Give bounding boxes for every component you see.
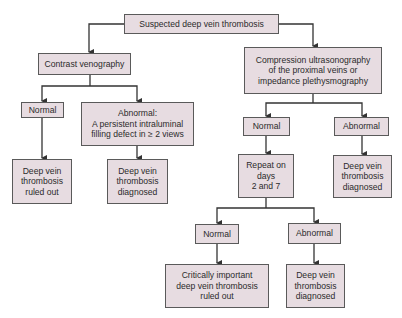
node-label: Abnormal	[343, 121, 380, 132]
node-label: Suspected deep vein thrombosis	[139, 19, 264, 30]
node-dvt-diagnosed-left: Deep vein thrombosis diagnosed	[107, 159, 168, 204]
node-label: Normal	[253, 121, 281, 132]
node-repeat-normal: Normal	[195, 224, 239, 244]
node-critical-dvt-ruled-out: Critically important deep vein thrombosi…	[165, 264, 269, 308]
node-dvt-diagnosed-right: Deep vein thrombosis diagnosed	[333, 155, 392, 198]
node-venography-normal: Normal	[21, 102, 64, 118]
node-dvt-ruled-out-left: Deep vein thrombosis ruled out	[12, 159, 72, 204]
node-label: Abnormal	[296, 228, 333, 239]
node-compression-normal: Normal	[243, 117, 290, 136]
node-repeat-abnormal: Abnormal	[288, 223, 341, 244]
node-venography-abnormal: Abnormal: A persistent intraluminal fill…	[81, 102, 194, 146]
node-compression-abnormal: Abnormal	[334, 117, 389, 136]
node-label: Deep vein thrombosis diagnosed	[116, 166, 158, 198]
node-label: Abnormal: A persistent intraluminal fill…	[91, 108, 184, 140]
node-label: Normal	[29, 105, 57, 116]
node-label: Critically important deep vein thrombosi…	[176, 270, 258, 302]
node-label: Deep vein thrombosis diagnosed	[294, 270, 336, 302]
flowchart: Suspected deep vein thrombosis Contrast …	[0, 0, 402, 318]
node-contrast-venography: Contrast venography	[38, 53, 131, 75]
node-label: Deep vein thrombosis ruled out	[21, 166, 63, 198]
node-suspected-dvt: Suspected deep vein thrombosis	[124, 14, 279, 34]
node-label: Repeat on days 2 and 7	[246, 160, 286, 192]
node-label: Normal	[203, 229, 231, 240]
node-label: Compression ultrasonography of the proxi…	[256, 55, 371, 87]
node-dvt-diagnosed-bottom: Deep vein thrombosis diagnosed	[286, 264, 345, 308]
node-label: Contrast venography	[45, 59, 125, 70]
node-repeat-days: Repeat on days 2 and 7	[238, 154, 294, 198]
node-label: Deep vein thrombosis diagnosed	[341, 161, 383, 193]
node-compression-ultrasonography: Compression ultrasonography of the proxi…	[244, 47, 382, 94]
